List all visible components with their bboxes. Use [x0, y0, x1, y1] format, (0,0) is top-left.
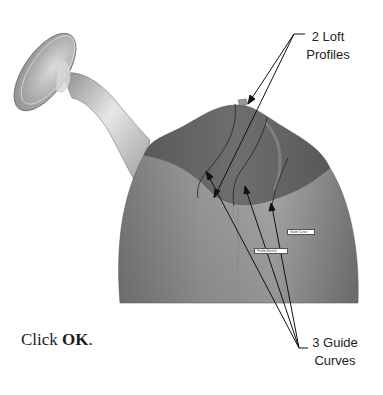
ok-keyword: OK: [62, 330, 88, 349]
loft-callout-line1: 2 Loft: [300, 28, 356, 46]
can-body: [119, 99, 359, 303]
guide-curve-tag: Guide Curve: [287, 229, 315, 235]
guide-callout-line1: 3 Guide: [304, 334, 366, 352]
loft-profiles-callout: 2 Loft Profiles: [300, 28, 356, 64]
spout: [2, 23, 150, 190]
loft-callout-line2: Profiles: [300, 46, 356, 64]
guide-curves-callout: 3 Guide Curves: [304, 334, 366, 370]
instruction-text: Click OK.: [21, 330, 93, 350]
profile-tag: Profile(Sketch): [254, 248, 288, 254]
instruction-prefix: Click: [21, 330, 62, 349]
instruction-suffix: .: [89, 330, 93, 349]
guide-callout-line2: Curves: [304, 352, 366, 370]
